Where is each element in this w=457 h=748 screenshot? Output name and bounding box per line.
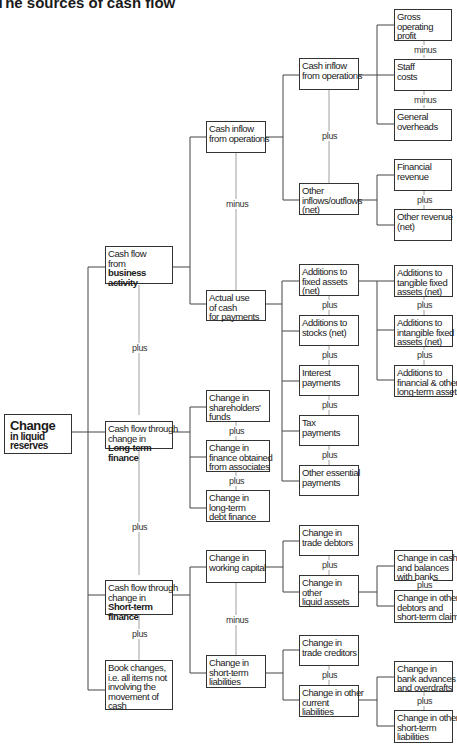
label: liquid assets	[302, 597, 356, 607]
op-plus-longterm-shortterm: plus	[131, 522, 148, 532]
label: working capital	[209, 563, 263, 573]
box-cash-flow-business-activity: Cash flow from business activity	[105, 246, 173, 284]
op-plus-cash-debtors: plus	[416, 580, 433, 590]
label: liabilities	[397, 732, 450, 742]
op-plus-business-longterm: plus	[131, 343, 148, 353]
label: finance	[108, 453, 170, 463]
label: finance	[108, 612, 170, 622]
label: payments	[302, 478, 356, 488]
op-plus-tangible-intangible: plus	[416, 300, 433, 310]
label: payments	[302, 428, 356, 438]
label: liabilities	[209, 677, 263, 687]
box-change-cash-balances-banks: Change in cash and balances with banks	[394, 550, 453, 581]
label: debt finance	[209, 512, 267, 522]
label: trade debtors	[302, 538, 356, 548]
label: stocks (net)	[302, 328, 356, 338]
box-financial-revenue: Financial revenue	[394, 159, 452, 191]
op-plus-bank-other: plus	[416, 696, 433, 706]
box-other-revenue: Other revenue (net)	[394, 209, 452, 241]
op-plus-fixed-stocks: plus	[321, 300, 338, 310]
box-additions-tangible-fixed-assets: Additions to tangible fixed assets (net)	[394, 265, 453, 297]
op-plus-intangible-financial: plus	[416, 350, 433, 360]
label: long-term assets	[397, 387, 450, 397]
box-change-long-term-debt: Change in long-term debt finance	[206, 490, 270, 522]
label: costs	[397, 72, 449, 82]
box-additions-stocks: Additions to stocks (net)	[299, 315, 359, 346]
box-staff-costs: Staff costs	[394, 59, 452, 91]
label: short-term claims	[397, 612, 450, 622]
op-plus-shortterm-book: plus	[131, 629, 148, 639]
label: (net)	[397, 222, 449, 232]
box-change-trade-debtors: Change in trade debtors	[299, 525, 359, 556]
box-cash-inflow-from-operations: Cash inflow from operations	[206, 121, 266, 153]
label: cash	[108, 701, 170, 711]
label: and overdrafts	[397, 683, 450, 693]
box-change-other-short-term-liabilities: Change in other short-term liabilities	[394, 710, 453, 743]
label: for payments	[209, 312, 263, 322]
box-interest-payments: Interest payments	[299, 365, 359, 396]
op-plus-creditors-current: plus	[321, 670, 338, 680]
box-change-bank-advances: Change in bank advances and overdrafts	[394, 661, 453, 692]
op-plus-shareholders-associates: plus	[228, 426, 245, 436]
label: activity	[108, 278, 170, 288]
box-additions-fixed-assets: Additions to fixed assets (net)	[299, 264, 359, 296]
box-cash-inflow-from-operations-detail: Cash inflow from operations	[299, 58, 359, 90]
op-plus-associates-debt: plus	[228, 476, 245, 486]
op-minus-wc-stl: minus	[225, 615, 250, 625]
label: from operations	[302, 71, 356, 81]
connector-lines	[0, 0, 457, 748]
box-change-trade-creditors: Change in trade creditors	[299, 635, 359, 666]
label: profit	[397, 31, 449, 41]
box-additions-financial-long-term-assets: Additions to financial & other long-term…	[394, 365, 453, 397]
box-other-inflows-outflows: Other inflows/outflows (net)	[299, 183, 359, 215]
label: assets (net)	[397, 337, 450, 347]
box-gross-operating-profit: Gross operating profit	[394, 9, 452, 41]
box-change-liquid-reserves: Change in liquid reserves	[4, 414, 72, 454]
box-change-other-current-liabilities: Change in other current liabilities	[299, 685, 359, 717]
label: payments	[302, 378, 356, 388]
label: liabilities	[302, 707, 356, 717]
op-plus-financial-other: plus	[416, 195, 433, 205]
op-plus-stocks-interest: plus	[321, 350, 338, 360]
label: overheads	[397, 122, 449, 132]
label: revenue	[397, 172, 449, 182]
box-cash-flow-short-term-finance: Cash flow through change in Short-term f…	[105, 580, 173, 615]
op-plus-interest-tax: plus	[321, 400, 338, 410]
box-change-short-term-liabilities: Change in short-term liabilities	[206, 655, 266, 688]
box-tax-payments: Tax payments	[299, 415, 359, 446]
box-cash-flow-long-term-finance: Cash flow through change in Long-term fi…	[105, 421, 173, 449]
op-minus-gross-staff: minus	[413, 45, 438, 55]
box-additions-intangible-fixed-assets: Additions to intangible fixed assets (ne…	[394, 315, 453, 347]
op-minus-staff-overheads: minus	[413, 95, 438, 105]
label: funds	[209, 412, 267, 422]
box-change-finance-associates: Change in finance obtained from associat…	[206, 440, 270, 472]
label: from operations	[209, 134, 263, 144]
op-minus-inflow-actual: minus	[225, 199, 250, 209]
label: trade creditors	[302, 648, 356, 658]
box-change-working-capital: Change in working capital	[206, 550, 266, 583]
label: (net)	[302, 205, 356, 215]
label: from associates	[209, 462, 267, 472]
op-plus-inflow-other: plus	[321, 131, 338, 141]
box-actual-use-of-cash: Actual use of cash for payments	[206, 290, 266, 321]
box-change-other-debtors: Change in other debtors and short-term c…	[394, 590, 453, 623]
root-line3: reserves	[10, 441, 66, 450]
box-change-shareholders-funds: Change in shareholders' funds	[206, 390, 270, 422]
box-book-changes: Book changes, i.e. all items not involvi…	[105, 660, 173, 710]
label: assets (net)	[397, 287, 450, 297]
box-other-essential-payments: Other essential payments	[299, 465, 359, 496]
box-general-overheads: General overheads	[394, 109, 452, 141]
box-change-other-liquid-assets: Change in other liquid assets	[299, 575, 359, 607]
op-plus-debtors-liquid: plus	[321, 560, 338, 570]
op-plus-tax-other: plus	[321, 450, 338, 460]
label: (net)	[302, 286, 356, 296]
